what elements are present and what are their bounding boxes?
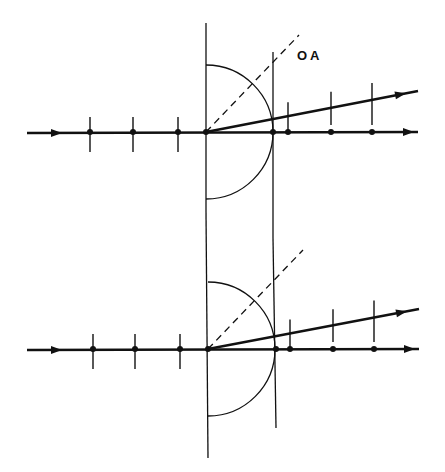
wavefront-dot [287, 346, 293, 352]
wavefront-dot [285, 129, 291, 135]
ray-diagram: OA [0, 0, 445, 472]
wavefront-dot [177, 346, 183, 352]
wavefront-dot [90, 346, 96, 352]
wavefront-dot [132, 346, 138, 352]
horizontal-ray [27, 349, 419, 350]
interface-dot [273, 346, 279, 352]
wavefront-dot [330, 346, 336, 352]
refracted-ray [208, 309, 419, 349]
refracted-ray [206, 91, 418, 132]
arrowhead-icon [403, 128, 414, 136]
wavefront-dot [87, 129, 93, 135]
wavefront-dot [328, 129, 334, 135]
horizontal-ray [27, 132, 418, 133]
arrowhead-icon [51, 346, 62, 354]
diagram-svg [0, 0, 445, 472]
wavefront-dot [369, 129, 375, 135]
arrowhead-icon [404, 345, 415, 353]
arrowhead-icon [51, 129, 62, 137]
interface-dot [270, 129, 276, 135]
label-oa: OA [297, 48, 323, 63]
wavefront-dot [371, 346, 377, 352]
wavefront-dot [175, 129, 181, 135]
optical-axis-vertical [206, 212, 208, 458]
wavefront-dot [130, 129, 136, 135]
